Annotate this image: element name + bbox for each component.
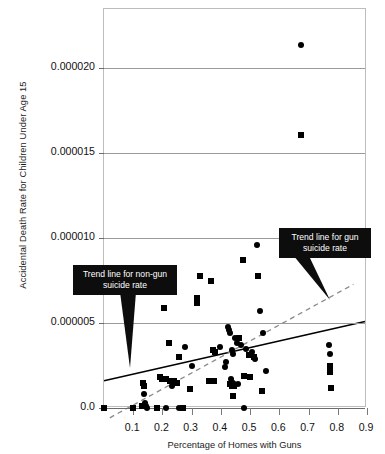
data-point-square: [180, 405, 186, 411]
annotation-nongun-pointer: [103, 292, 163, 372]
data-point-square: [241, 373, 247, 379]
data-point-circle: [241, 405, 247, 411]
data-point-square: [208, 278, 214, 284]
x-tick-mark: [309, 408, 310, 415]
y-tick-label: 0.000010: [0, 230, 95, 242]
data-point-circle: [260, 330, 266, 336]
x-tick-mark: [279, 408, 280, 415]
y-tick-label: 0.000020: [0, 60, 95, 72]
y-tick-mark: [99, 153, 104, 154]
data-point-square: [166, 340, 172, 346]
data-point-square: [255, 273, 261, 279]
data-point-square: [247, 374, 253, 380]
y-gridline: [104, 68, 365, 69]
data-point-circle: [327, 351, 333, 357]
scatter-chart-figure: Accidental Death Rate for Children Under…: [0, 0, 385, 454]
data-point-square: [154, 405, 160, 411]
y-axis-title: Accidental Death Rate for Children Under…: [18, 45, 28, 325]
data-point-square: [101, 405, 107, 411]
x-tick-mark: [250, 408, 251, 415]
y-tick-label: 0.000015: [0, 145, 95, 157]
data-point-circle: [163, 405, 169, 411]
data-point-square: [240, 257, 246, 263]
data-point-square: [197, 273, 203, 279]
data-point-circle: [298, 42, 304, 48]
data-point-square: [212, 349, 218, 355]
data-point-square: [176, 354, 182, 360]
data-point-circle: [230, 351, 236, 357]
data-point-square: [259, 388, 265, 394]
data-point-square: [139, 403, 145, 409]
x-tick-mark: [192, 408, 193, 415]
x-tick-mark: [221, 408, 222, 415]
data-point-square: [130, 405, 136, 411]
x-tick-label: 0.9: [346, 421, 385, 433]
x-axis-title: Percentage of Homes with Guns: [103, 440, 366, 453]
y-tick-mark: [99, 238, 104, 239]
data-point-square: [211, 378, 217, 384]
data-point-circle: [263, 368, 269, 374]
data-point-square: [298, 132, 304, 138]
annotation-nongun-trend: Trend line for non-gun suicide rate: [73, 265, 177, 295]
annotation-gun-pointer: [290, 255, 340, 305]
y-gridline: [104, 153, 365, 154]
y-tick-label: 0.0: [0, 400, 95, 412]
y-tick-mark: [99, 68, 104, 69]
data-point-square: [230, 393, 236, 399]
x-tick-mark: [338, 408, 339, 415]
annotation-gun-trend: Trend line for gun suicide rate: [279, 228, 371, 258]
data-point-square: [174, 380, 180, 386]
data-point-square: [194, 300, 200, 306]
data-point-circle: [257, 308, 263, 314]
data-point-square: [328, 385, 334, 391]
data-point-square: [327, 369, 333, 375]
data-point-square: [187, 386, 193, 392]
y-tick-label: 0.000005: [0, 315, 95, 327]
data-point-circle: [182, 344, 188, 350]
data-point-circle: [189, 363, 195, 369]
data-point-square: [231, 383, 237, 389]
x-tick-mark: [367, 408, 368, 415]
data-point-square: [251, 354, 257, 360]
data-point-square: [327, 363, 333, 369]
data-point-square: [141, 383, 147, 389]
data-point-square: [236, 335, 242, 341]
